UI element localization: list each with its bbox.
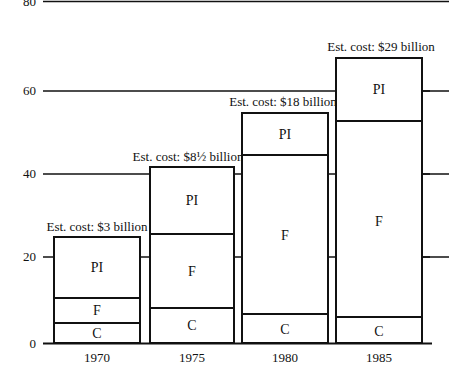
segment-label-pi: PI [279,127,292,142]
segment-label-f: F [281,228,289,243]
segment-label-pi: PI [91,260,104,275]
bar-1985: PI F C Est. cost: $29 billion 1985 [327,39,435,365]
bar-1975: PI F C Est. cost: $8½ billion 1975 [133,149,244,365]
y-tick-60: 60 [23,83,36,98]
cost-annotation: Est. cost: $29 billion [327,39,435,54]
x-tick-1970: 1970 [84,350,110,365]
x-tick-1980: 1980 [272,350,298,365]
segment-label-pi: PI [186,193,199,208]
stacked-bar-chart: 80 60 40 20 0 PI F C Est. cost: $3 billi… [0,0,451,377]
cost-annotation: Est. cost: $8½ billion [133,149,244,164]
y-tick-40: 40 [23,166,36,181]
cost-annotation: Est. cost: $3 billion [46,219,148,234]
segment-label-pi: PI [373,82,386,97]
segment-label-f: F [93,303,101,318]
segment-label-c: C [374,324,383,339]
y-tick-20: 20 [23,249,36,264]
cost-annotation: Est. cost: $18 billion [229,94,337,109]
y-axis: 80 60 40 20 0 [23,0,36,351]
segment-label-f: F [375,214,383,229]
segment-label-c: C [187,318,196,333]
x-tick-1985: 1985 [366,350,392,365]
segment-label-c: C [280,322,289,337]
x-tick-1975: 1975 [179,350,205,365]
segment-label-c: C [92,326,101,341]
y-tick-80: 80 [23,0,36,9]
right-ticks [422,91,430,257]
y-tick-0: 0 [30,336,37,351]
segment-label-f: F [188,264,196,279]
bar-1980: PI F C Est. cost: $18 billion 1980 [229,94,337,365]
